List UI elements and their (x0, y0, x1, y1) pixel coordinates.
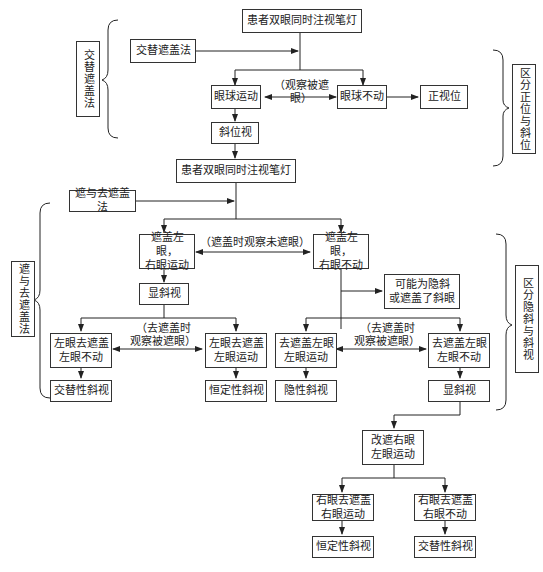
latent-strabismus-box: 隐性斜视 (275, 380, 337, 402)
observe-uncovered-label: （遮盖时观察未遮眼） (200, 236, 310, 249)
switch-cover-right-box: 改遮右眼 左眼运动 (362, 430, 424, 465)
left-uncover-still: 左眼去遮盖 左眼不动 (50, 333, 112, 368)
alternating-strabismus-box-2: 交替性斜视 (414, 536, 476, 558)
left-uncover-moves: 左眼去遮盖 左眼运动 (205, 333, 267, 368)
side-label-phoria-vs-tropia: 区分隐斜与斜视 (515, 265, 539, 373)
heterotropia-box: 斜位视 (211, 122, 259, 144)
uncover-left-moves: 去遮盖左眼 左眼运动 (275, 333, 337, 368)
eye-moves-box: 眼球运动 (211, 85, 261, 109)
cover-left-right-moves: 遮盖左眼， 右眼运动 (139, 234, 195, 269)
start-box-1: 患者双眼同时注视笔灯 (242, 9, 362, 33)
cover-left-right-still: 遮盖左眼， 右眼不动 (313, 234, 369, 269)
constant-strabismus-box: 恒定性斜视 (205, 380, 267, 402)
side-label-alternate-cover: 交替遮盖法 (76, 41, 100, 117)
observe-covered-label-right: （去遮盖时 观察被遮眼） (352, 322, 422, 348)
possible-phoria-box: 可能为隐斜 或遮盖了斜眼 (384, 274, 460, 309)
uncover-left-still: 去遮盖左眼 左眼不动 (428, 333, 490, 368)
constant-strabismus-box-2: 恒定性斜视 (312, 536, 374, 558)
eye-still-box: 眼球不动 (337, 85, 387, 109)
right-uncover-moves: 右眼去遮盖 右眼运动 (312, 494, 374, 521)
method-cover-uncover: 遮与去遮盖法 (69, 190, 136, 212)
alternating-strabismus-box: 交替性斜视 (50, 380, 112, 402)
orthophoria-box: 正视位 (420, 85, 468, 109)
observe-covered-label-left: （去遮盖时 观察被遮眼） (128, 322, 198, 348)
method-alternate-cover: 交替遮盖法 (130, 39, 196, 63)
side-label-cover-uncover: 遮与去遮盖法 (11, 261, 35, 337)
manifest-box: 显斜视 (139, 283, 189, 305)
side-label-ortho-vs-hetero: 区分正位与斜位 (512, 64, 536, 154)
manifest-box-2: 显斜视 (428, 380, 490, 402)
start-box-2: 患者双眼同时注视笔灯 (176, 159, 296, 183)
right-uncover-still: 右眼去遮盖 右眼不动 (414, 494, 476, 521)
observe-covered-label: （观察被遮眼） (266, 79, 336, 105)
